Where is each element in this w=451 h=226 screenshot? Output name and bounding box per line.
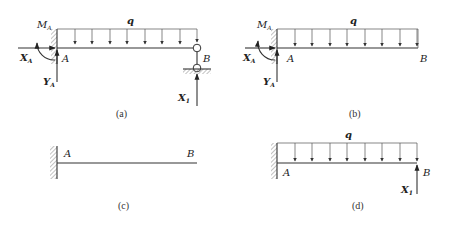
label-x1: X1 — [177, 92, 190, 104]
load-label-q: q — [345, 129, 352, 140]
label-ma: MA — [256, 19, 272, 31]
panel-a: q MA XA YA A B X1 (a) — [18, 15, 211, 120]
label-ma: MA — [36, 19, 52, 31]
label-point-a: A — [282, 167, 290, 178]
label-point-b: B — [202, 53, 210, 64]
load-label-q: q — [127, 15, 134, 26]
distributed-load — [277, 143, 417, 161]
fixed-wall-hatch — [50, 146, 57, 179]
caption-a: (a) — [116, 108, 127, 120]
panel-c: A B (c) — [50, 146, 197, 212]
label-point-b: B — [422, 167, 430, 178]
fixed-wall-hatch — [271, 143, 277, 179]
label-point-b: B — [186, 148, 194, 159]
label-xa: XA — [19, 52, 33, 64]
label-x1: X1 — [400, 184, 413, 196]
panel-b: q MA XA YA A B (b) — [242, 15, 427, 120]
distributed-load — [277, 29, 418, 48]
fixed-wall-hatch — [51, 29, 57, 64]
label-point-b: B — [419, 53, 427, 64]
label-xa: XA — [242, 52, 256, 64]
caption-c: (c) — [118, 200, 129, 212]
label-ya: YA — [43, 76, 55, 88]
distributed-load — [57, 29, 197, 44]
label-ya: YA — [263, 76, 275, 88]
load-label-q: q — [350, 15, 357, 26]
beam-diagrams: q MA XA YA A B X1 (a) — [0, 0, 451, 226]
label-point-a: A — [286, 53, 294, 64]
caption-d: (d) — [352, 200, 364, 212]
caption-b: (b) — [349, 108, 361, 120]
panel-d: q A B X1 (d) — [271, 129, 430, 212]
fixed-wall-hatch — [271, 29, 277, 64]
label-point-a: A — [63, 148, 71, 159]
label-point-a: A — [61, 53, 69, 64]
